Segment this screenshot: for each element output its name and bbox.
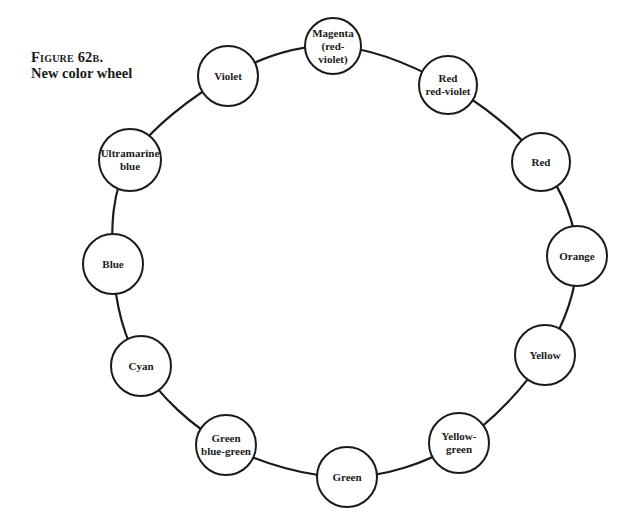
wheel-ring-line: [112, 46, 577, 477]
node-orange: Orange: [546, 225, 608, 287]
node-violet: Violet: [197, 45, 259, 107]
node-green-blue-green: Greenblue-green: [195, 414, 257, 476]
node-ultramarine-blue: Ultramarineblue: [98, 128, 162, 192]
node-green: Green: [316, 446, 378, 508]
node-blue: Blue: [82, 233, 144, 295]
node-cyan: Cyan: [110, 335, 172, 397]
node-red-red-violet: Redred-violet: [418, 55, 478, 115]
node-magenta: Magenta(red-violet): [304, 17, 362, 75]
node-red: Red: [511, 132, 571, 192]
node-yellow: Yellow: [514, 324, 576, 386]
node-yellow-green: Yellow-green: [428, 412, 490, 474]
